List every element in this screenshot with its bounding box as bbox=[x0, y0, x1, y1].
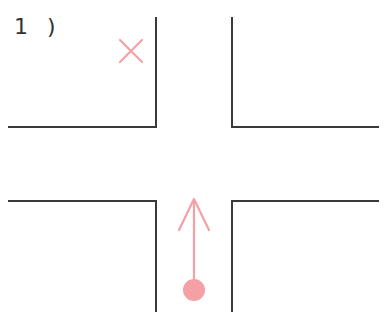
road-edge-bottom-left bbox=[8, 201, 156, 312]
road-edge-top-right bbox=[232, 17, 379, 127]
road-edge-bottom-right bbox=[232, 201, 379, 312]
road-edge-top-left bbox=[8, 17, 156, 127]
start-dot-icon bbox=[183, 279, 205, 301]
intersection-drawing bbox=[0, 0, 385, 328]
x-mark-icon bbox=[120, 40, 142, 62]
arrow-up-icon bbox=[179, 199, 209, 285]
crossroads-diagram: 1 ) bbox=[0, 0, 385, 328]
